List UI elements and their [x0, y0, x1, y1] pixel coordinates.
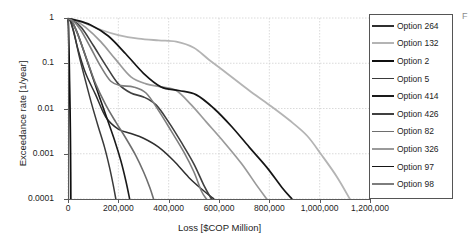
legend-label: Option 426: [397, 109, 439, 119]
legend-item[interactable]: Option 82: [372, 123, 452, 141]
edge-text-artifact: F: [462, 10, 471, 36]
legend-color-swatch: [372, 42, 394, 44]
legend-item[interactable]: Option 2: [372, 52, 452, 70]
x-tick-mark: [219, 199, 220, 203]
chart-legend: Option 264Option 132Option 2Option 5Opti…: [369, 14, 453, 199]
legend-label: Option 414: [397, 91, 439, 101]
x-tick-mark: [118, 199, 119, 203]
legend-label: Option 5: [397, 74, 429, 84]
x-tick-mark: [370, 199, 371, 203]
exceedance-rate-chart-figure: 10.10.010.0010.0001 0200,000400,000600,0…: [0, 0, 471, 246]
legend-color-swatch: [372, 95, 394, 97]
x-tick-mark: [169, 199, 170, 203]
legend-color-swatch: [372, 113, 394, 115]
x-tick-label: 400,000: [153, 203, 184, 213]
legend-label: Option 132: [397, 38, 439, 48]
legend-color-swatch: [372, 166, 394, 168]
legend-color-swatch: [372, 148, 394, 150]
legend-label: Option 2: [397, 56, 429, 66]
legend-item[interactable]: Option 426: [372, 105, 452, 123]
x-tick-label: 600,000: [204, 203, 235, 213]
legend-item[interactable]: Option 97: [372, 158, 452, 176]
legend-label: Option 82: [397, 126, 434, 136]
x-axis-title: Loss [$COP Million]: [68, 222, 371, 233]
legend-item[interactable]: Option 264: [372, 17, 452, 35]
x-tick-label: 800,000: [254, 203, 285, 213]
x-tick-label: 1,000,000: [301, 203, 339, 213]
legend-item[interactable]: Option 326: [372, 140, 452, 158]
legend-item[interactable]: Option 5: [372, 70, 452, 88]
legend-color-swatch: [372, 131, 394, 133]
x-tick-label: 1,200,000: [351, 203, 389, 213]
x-tick-label: 200,000: [103, 203, 134, 213]
x-tick-mark: [320, 199, 321, 203]
legend-label: Option 264: [397, 21, 439, 31]
x-tick-label: 0: [66, 203, 71, 213]
legend-color-swatch: [372, 78, 394, 80]
legend-color-swatch: [372, 60, 394, 62]
legend-label: Option 326: [397, 144, 439, 154]
legend-item[interactable]: Option 98: [372, 175, 452, 193]
legend-color-swatch: [372, 25, 394, 27]
x-tick-mark: [269, 199, 270, 203]
legend-item[interactable]: Option 132: [372, 35, 452, 53]
legend-color-swatch: [372, 183, 394, 185]
legend-label: Option 98: [397, 179, 434, 189]
legend-label: Option 97: [397, 162, 434, 172]
x-tick-mark: [68, 199, 69, 203]
y-axis-title: Exceedance rate [1/year]: [17, 24, 28, 204]
legend-item[interactable]: Option 414: [372, 87, 452, 105]
